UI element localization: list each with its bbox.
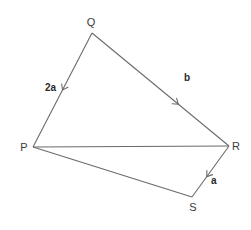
edge-rs xyxy=(192,146,229,197)
vertex-label-s: S xyxy=(189,201,196,213)
vertex-label-r: R xyxy=(232,140,240,152)
edge-pr xyxy=(33,146,229,147)
edges-group xyxy=(33,33,229,197)
edge-labels-group: 2aba xyxy=(45,72,217,186)
vertex-labels-group: QPRS xyxy=(20,16,240,213)
edge-ps xyxy=(33,147,192,197)
vector-label-a: a xyxy=(211,175,217,186)
vector-label-b: b xyxy=(184,72,190,83)
vector-label-2a: 2a xyxy=(45,82,57,93)
vector-diagram: QPRS 2aba xyxy=(0,0,251,230)
edge-qr xyxy=(92,33,229,146)
vertex-label-p: P xyxy=(20,141,27,153)
vertex-label-q: Q xyxy=(87,16,96,28)
